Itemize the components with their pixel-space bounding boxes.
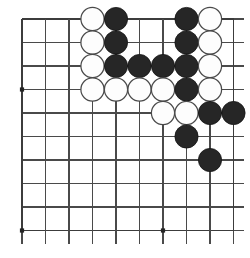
stone-black-c10r5[interactable] bbox=[222, 101, 245, 124]
stone-black-c8r4[interactable] bbox=[175, 78, 198, 101]
star-point-2 bbox=[20, 228, 24, 232]
go-board-figure bbox=[0, 0, 250, 258]
stone-black-c9r5[interactable] bbox=[198, 101, 221, 124]
stone-white-c4r3[interactable] bbox=[81, 54, 104, 77]
stone-white-c7r5[interactable] bbox=[151, 101, 174, 124]
stone-white-c8r5[interactable] bbox=[175, 101, 198, 124]
stone-black-c5r3[interactable] bbox=[104, 54, 127, 77]
stone-white-c6r4[interactable] bbox=[128, 78, 151, 101]
stone-black-c5r2[interactable] bbox=[104, 31, 127, 54]
stone-black-c8r3[interactable] bbox=[175, 54, 198, 77]
stone-white-c4r1[interactable] bbox=[81, 7, 104, 30]
stone-white-c4r4[interactable] bbox=[81, 78, 104, 101]
stone-black-c9r7[interactable] bbox=[198, 148, 221, 171]
stone-black-c7r3[interactable] bbox=[151, 54, 174, 77]
stone-black-c8r1[interactable] bbox=[175, 7, 198, 30]
stone-white-c9r2[interactable] bbox=[198, 31, 221, 54]
stone-white-c9r1[interactable] bbox=[198, 7, 221, 30]
stone-white-c7r4[interactable] bbox=[151, 78, 174, 101]
stone-white-c5r4[interactable] bbox=[104, 78, 127, 101]
stone-white-c4r2[interactable] bbox=[81, 31, 104, 54]
stone-white-c9r3[interactable] bbox=[198, 54, 221, 77]
stone-black-c8r6[interactable] bbox=[175, 125, 198, 148]
stone-black-c6r3[interactable] bbox=[128, 54, 151, 77]
stone-white-c9r4[interactable] bbox=[198, 78, 221, 101]
star-point-1 bbox=[20, 87, 24, 91]
stone-black-c8r2[interactable] bbox=[175, 31, 198, 54]
go-board-canvas[interactable] bbox=[0, 0, 250, 258]
stone-black-c5r1[interactable] bbox=[104, 7, 127, 30]
star-point-3 bbox=[161, 228, 165, 232]
